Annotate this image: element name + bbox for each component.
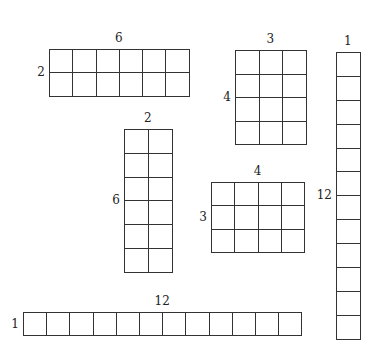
unit-square: [337, 316, 361, 340]
unit-square: [260, 98, 284, 122]
unit-square: [212, 206, 235, 229]
unit-square: [283, 75, 307, 99]
rectangle-3x4: [235, 50, 307, 145]
unit-square: [140, 313, 163, 336]
unit-square: [50, 50, 73, 73]
unit-square: [117, 313, 140, 336]
unit-square: [259, 183, 282, 206]
unit-square: [259, 230, 282, 253]
unit-square: [120, 73, 143, 96]
unit-square: [260, 75, 284, 99]
unit-square: [282, 206, 305, 229]
width-label: 3: [255, 33, 285, 45]
height-label: 6: [90, 194, 120, 206]
unit-square: [125, 130, 149, 154]
unit-square: [186, 313, 209, 336]
unit-square: [233, 313, 256, 336]
unit-square: [212, 183, 235, 206]
unit-square: [279, 313, 302, 336]
unit-square: [337, 77, 361, 101]
unit-square: [235, 183, 258, 206]
unit-square: [236, 75, 260, 99]
unit-square: [70, 313, 93, 336]
width-label: 6: [104, 32, 134, 44]
unit-square: [143, 50, 166, 73]
unit-square: [97, 50, 120, 73]
height-label: 1: [0, 318, 19, 330]
height-label: 3: [177, 211, 207, 223]
unit-square: [259, 206, 282, 229]
unit-square: [260, 122, 284, 146]
width-label: 2: [133, 112, 163, 124]
unit-square: [210, 313, 233, 336]
unit-square: [236, 122, 260, 146]
unit-square: [337, 220, 361, 244]
unit-square: [337, 101, 361, 125]
unit-square: [97, 73, 120, 96]
unit-square: [212, 230, 235, 253]
unit-square: [282, 230, 305, 253]
unit-square: [260, 51, 284, 75]
unit-square: [337, 268, 361, 292]
unit-square: [235, 230, 258, 253]
unit-square: [149, 225, 173, 249]
rectangle-6x2: [49, 49, 190, 97]
unit-square: [283, 51, 307, 75]
unit-square: [283, 98, 307, 122]
unit-square: [50, 73, 73, 96]
unit-square: [166, 50, 189, 73]
unit-square: [337, 125, 361, 149]
unit-square: [337, 292, 361, 316]
unit-square: [125, 225, 149, 249]
unit-square: [149, 201, 173, 225]
unit-square: [337, 196, 361, 220]
unit-square: [163, 313, 186, 336]
unit-square: [143, 73, 166, 96]
rectangle-1x12: [336, 52, 361, 340]
rectangle-2x6: [124, 129, 173, 273]
unit-square: [337, 244, 361, 268]
unit-square: [47, 313, 70, 336]
unit-square: [73, 73, 96, 96]
unit-square: [337, 149, 361, 173]
unit-square: [94, 313, 117, 336]
width-label: 12: [147, 295, 177, 307]
unit-square: [149, 154, 173, 178]
unit-square: [125, 154, 149, 178]
unit-square: [283, 122, 307, 146]
unit-square: [149, 249, 173, 273]
unit-square: [149, 178, 173, 202]
unit-square: [24, 313, 47, 336]
width-label: 1: [333, 35, 363, 47]
unit-square: [125, 249, 149, 273]
height-label: 4: [201, 91, 231, 103]
unit-square: [337, 53, 361, 77]
height-label: 12: [302, 189, 332, 201]
unit-square: [256, 313, 279, 336]
width-label: 4: [243, 165, 273, 177]
unit-square: [166, 73, 189, 96]
unit-square: [125, 201, 149, 225]
unit-square: [236, 98, 260, 122]
unit-square: [337, 172, 361, 196]
height-label: 2: [15, 66, 45, 78]
unit-square: [73, 50, 96, 73]
unit-square: [235, 206, 258, 229]
unit-square: [120, 50, 143, 73]
unit-square: [125, 178, 149, 202]
unit-square: [149, 130, 173, 154]
rectangle-4x3: [211, 182, 305, 253]
unit-square: [236, 51, 260, 75]
rectangle-12x1: [23, 312, 302, 336]
